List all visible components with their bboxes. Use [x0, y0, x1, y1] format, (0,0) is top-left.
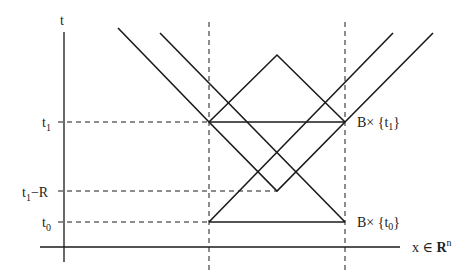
t-axis-label: t: [60, 13, 64, 28]
backward-cone-outer: [118, 28, 433, 191]
forward-cone-top: [209, 55, 345, 122]
light-cone-diagram: t t1 t1−R t0 B× {t1} B× {t0} x ∈ Rn: [0, 0, 469, 277]
annotation-b-t1: B× {t1}: [357, 115, 400, 132]
tick-label-t1: t1: [42, 115, 51, 133]
cone-line-left-inner: [160, 33, 345, 222]
annotation-b-t0: B× {t0}: [357, 215, 400, 232]
x-axis-label: x ∈ Rn: [412, 237, 452, 255]
tick-label-t0: t0: [42, 215, 51, 233]
tick-label-t1-minus-r: t1−R: [22, 185, 49, 203]
